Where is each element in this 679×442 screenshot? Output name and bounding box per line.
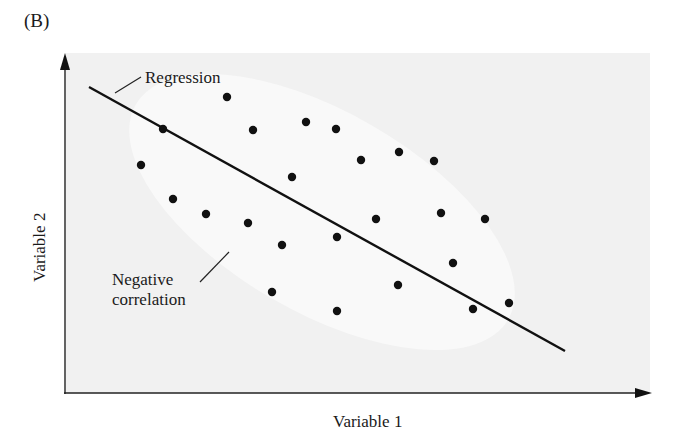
data-point: [169, 195, 177, 203]
scatter-chart: Regression Negative correlation Variable…: [0, 0, 679, 442]
data-point: [332, 125, 340, 133]
data-point: [469, 305, 477, 313]
data-point: [159, 125, 167, 133]
negative-correlation-label: Negative correlation: [112, 270, 186, 309]
data-point: [333, 307, 341, 315]
data-point: [302, 118, 310, 126]
data-point: [268, 288, 276, 296]
data-point: [505, 299, 513, 307]
data-point: [481, 215, 489, 223]
x-axis-title: Variable 1: [333, 412, 402, 431]
data-point: [395, 148, 403, 156]
data-point: [394, 281, 402, 289]
y-axis-title: Variable 2: [30, 213, 49, 282]
data-point: [372, 215, 380, 223]
data-point: [430, 157, 438, 165]
data-point: [333, 233, 341, 241]
data-point: [357, 156, 365, 164]
data-point: [249, 126, 257, 134]
data-point: [278, 241, 286, 249]
data-point: [288, 173, 296, 181]
data-point: [137, 161, 145, 169]
data-point: [437, 209, 445, 217]
data-point: [223, 93, 231, 101]
data-point: [202, 210, 210, 218]
data-point: [449, 259, 457, 267]
regression-label: Regression: [145, 68, 221, 87]
data-point: [244, 219, 252, 227]
